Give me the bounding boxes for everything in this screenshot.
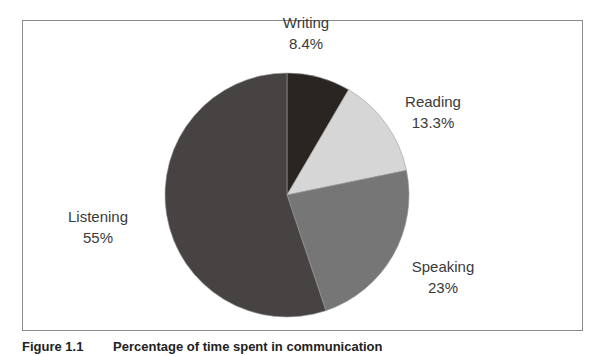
figure-caption-text: Percentage of time spent in communicatio… xyxy=(113,339,382,354)
label-speaking-name: Speaking xyxy=(412,256,475,277)
figure-caption: Figure 1.1 Percentage of time spent in c… xyxy=(22,339,383,354)
label-writing-name: Writing xyxy=(283,12,329,33)
label-writing: Writing 8.4% xyxy=(283,12,329,54)
label-reading-value: 13.3% xyxy=(405,112,461,133)
figure-number: Figure 1.1 xyxy=(22,339,83,354)
label-writing-value: 8.4% xyxy=(283,33,329,54)
label-reading: Reading 13.3% xyxy=(405,91,461,133)
label-reading-name: Reading xyxy=(405,91,461,112)
label-listening: Listening 55% xyxy=(68,206,128,248)
label-speaking-value: 23% xyxy=(412,277,475,298)
label-listening-name: Listening xyxy=(68,206,128,227)
label-speaking: Speaking 23% xyxy=(412,256,475,298)
label-listening-value: 55% xyxy=(68,227,128,248)
